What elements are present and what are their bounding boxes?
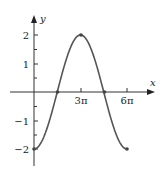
y-tick-label-2: 2 — [23, 30, 29, 41]
point-zero-1 — [56, 90, 60, 94]
y-axis-arrow-icon — [31, 15, 37, 23]
point-zero-2 — [103, 90, 107, 94]
function-plot: y x 3π 6π 2 1 −1 −2 — [0, 0, 162, 174]
y-axis-label: y — [39, 13, 46, 24]
point-end — [125, 147, 129, 151]
y-tick-label-neg1: −1 — [14, 116, 29, 127]
point-start — [32, 147, 36, 151]
x-tick-label-6pi: 6π — [121, 95, 134, 106]
point-max — [79, 33, 83, 37]
y-tick-label-neg2: −2 — [14, 144, 29, 155]
x-axis-label: x — [150, 77, 156, 88]
x-tick-label-3pi: 3π — [75, 95, 88, 106]
y-tick-label-1: 1 — [23, 59, 29, 70]
x-axis-arrow-icon — [147, 89, 155, 95]
